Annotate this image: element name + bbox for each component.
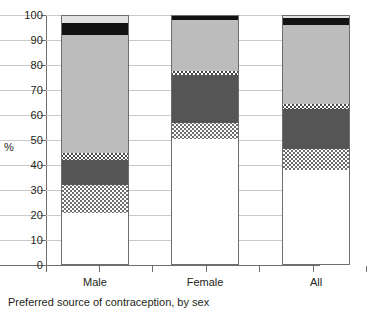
bar-all-segment-3 — [282, 109, 350, 149]
bar-female-segment-2 — [171, 123, 239, 139]
ytick-label-90: 90 — [3, 35, 43, 46]
bar-all-segment-6 — [282, 18, 350, 26]
xtick-mark-1 — [99, 266, 100, 272]
bar-male-segment-2 — [61, 185, 129, 213]
xtick-mark-3 — [206, 266, 207, 272]
xtick-label-male: Male — [65, 276, 125, 288]
bar-all-segment-4 — [282, 104, 350, 109]
xtick-mark-0 — [46, 266, 47, 272]
ytick-label-50: 50 — [3, 135, 43, 146]
ytick-label-80: 80 — [3, 60, 43, 71]
xtick-label-female: Female — [175, 276, 235, 288]
bar-female-segment-6 — [171, 16, 239, 20]
bar-female-segment-3 — [171, 75, 239, 123]
xtick-label-all: All — [286, 276, 346, 288]
ytick-label-60: 60 — [3, 110, 43, 121]
chart-figure: % 100 90 80 70 60 50 40 30 20 10 0 — [0, 0, 375, 316]
bar-all-segment-2 — [282, 149, 350, 170]
bar-male-segment-1 — [61, 213, 129, 266]
bar-all-segment-5 — [282, 25, 350, 104]
bar-female-segment-4 — [171, 71, 239, 75]
xtick-mark-5 — [313, 266, 314, 272]
bar-all[interactable] — [282, 15, 350, 265]
bar-male[interactable] — [61, 15, 129, 265]
bar-male-segment-3 — [61, 160, 129, 185]
bar-all-segment-1 — [282, 170, 350, 265]
ytick-label-30: 30 — [3, 185, 43, 196]
bar-male-segment-7 — [61, 15, 129, 23]
ytick-label-20: 20 — [3, 210, 43, 221]
xtick-mark-6 — [366, 266, 367, 272]
xtick-mark-2 — [152, 266, 153, 272]
xtick-mark-4 — [259, 266, 260, 272]
ytick-label-100: 100 — [3, 10, 43, 21]
bar-female-segment-5 — [171, 20, 239, 71]
bar-female[interactable] — [171, 15, 239, 265]
bar-male-segment-4 — [61, 153, 129, 161]
ytick-label-0: 0 — [3, 260, 43, 271]
x-axis-line — [0, 265, 320, 266]
bar-all-segment-7 — [282, 15, 350, 18]
ytick-label-70: 70 — [3, 85, 43, 96]
bar-female-segment-1 — [171, 139, 239, 265]
bar-male-segment-5 — [61, 35, 129, 153]
ytick-label-10: 10 — [3, 235, 43, 246]
figure-caption: Preferred source of contraception, by se… — [8, 296, 209, 309]
ytick-label-40: 40 — [3, 160, 43, 171]
bar-male-segment-6 — [61, 23, 129, 36]
bar-female-segment-7 — [171, 15, 239, 16]
